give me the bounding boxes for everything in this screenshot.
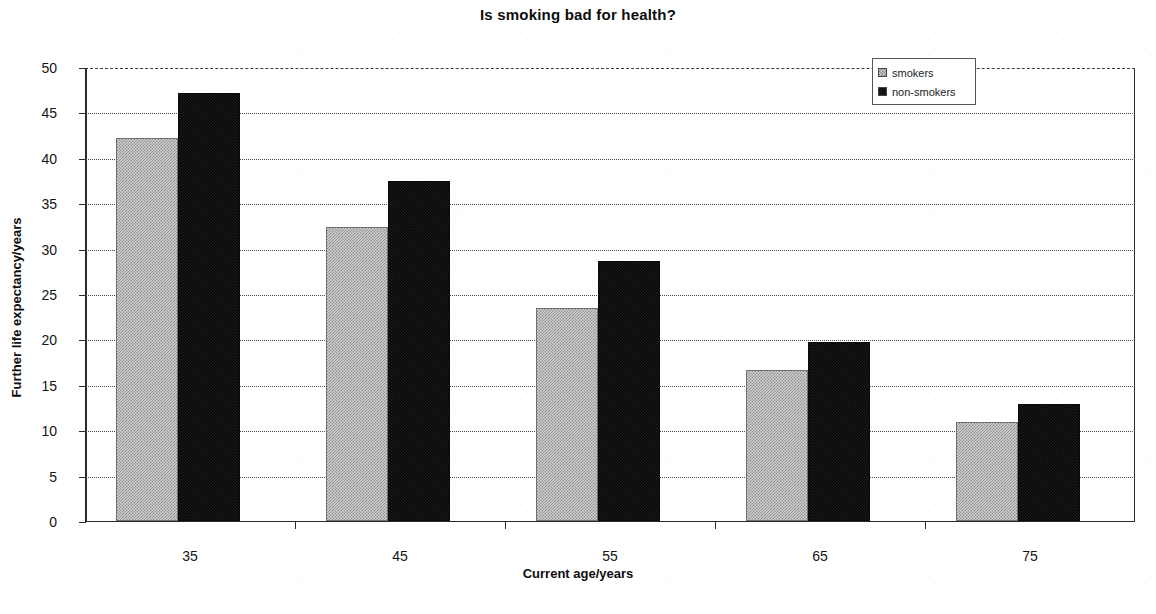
x-axis-tick-label: 75 [970,548,1090,564]
gridline [85,68,1135,69]
x-axis-tick-label: 35 [130,548,250,564]
bar-smokers-45 [326,227,388,520]
x-axis-line [85,521,1135,523]
y-axis-tick [79,477,86,478]
bar-smokers-55 [536,308,598,520]
x-axis-separator [925,521,926,529]
legend-swatch-icon [878,87,887,96]
x-axis-tick-label: 45 [340,548,460,564]
y-axis-tick-label: 15 [17,378,57,394]
x-axis-title: Current age/years [0,566,1156,581]
y-axis-tick-label: 50 [17,60,57,76]
y-axis-tick-label: 5 [17,469,57,485]
gridline [85,204,1135,205]
y-axis-tick [79,431,86,432]
y-axis-tick-label: 10 [17,423,57,439]
y-axis-tick [79,386,86,387]
y-axis-tick-label: 0 [17,514,57,530]
y-axis-tick [79,204,86,205]
bar-smokers-75 [956,422,1018,521]
y-axis-tick [79,113,86,114]
y-axis-tick-label: 40 [17,151,57,167]
y-axis-tick [79,340,86,341]
chart-title: Is smoking bad for health? [0,6,1156,23]
y-axis-tick-label: 20 [17,332,57,348]
bar-non-smokers-55 [598,261,660,521]
legend-swatch-icon [878,68,887,77]
legend-label: non-smokers [892,86,956,98]
bar-non-smokers-75 [1018,404,1080,520]
bar-chart: Is smoking bad for health? Further life … [0,0,1156,614]
x-axis-tick-label: 65 [760,548,880,564]
y-axis-tick [79,68,86,69]
y-axis-tick [79,159,86,160]
bar-smokers-35 [116,138,178,520]
bar-non-smokers-65 [808,342,870,521]
y-axis-tick-label: 45 [17,105,57,121]
x-axis-separator [715,521,716,529]
y-axis-tick-label: 35 [17,196,57,212]
gridline [85,250,1135,251]
bar-smokers-65 [746,370,808,521]
x-axis-tick-label: 55 [550,548,670,564]
y-axis-tick [79,295,86,296]
gridline [85,113,1135,114]
y-axis-tick [79,250,86,251]
plot-area: 504540353025201510503545556575 [85,68,1135,522]
y-axis-tick-label: 25 [17,287,57,303]
y-axis-tick [79,522,86,523]
legend-label: smokers [892,67,934,79]
legend-item-non-smokers: non-smokers [878,82,970,101]
y-axis-tick-label: 30 [17,242,57,258]
legend-item-smokers: smokers [878,63,970,82]
x-axis-separator [505,521,506,529]
x-axis-separator [295,521,296,529]
gridline [85,159,1135,160]
bar-non-smokers-35 [178,93,240,521]
bar-non-smokers-45 [388,181,450,521]
chart-legend: smokersnon-smokers [872,58,976,105]
